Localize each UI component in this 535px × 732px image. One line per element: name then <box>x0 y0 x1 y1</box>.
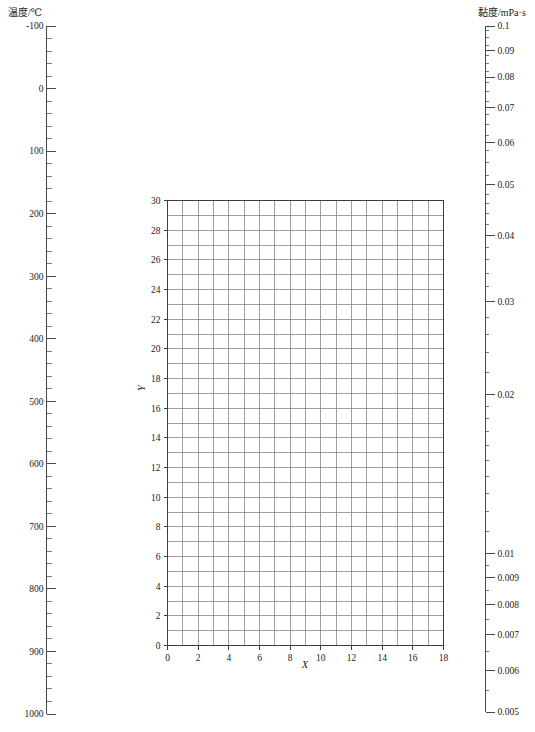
plot-y-tick-label: 8 <box>156 522 161 532</box>
right-axis-tick-label: 0.03 <box>498 297 515 307</box>
plot-y-tick-label: 28 <box>151 226 161 236</box>
left-axis-tick-label: -100 <box>26 21 44 31</box>
right-axis-tick-label: 0.009 <box>498 573 520 583</box>
right-viscosity-axis: 黏度/mPa·s 0.10.090.080.070.060.050.040.03… <box>478 6 526 717</box>
plot-y-tick-label: 0 <box>156 641 161 651</box>
plot-y-tick-label: 18 <box>151 374 161 384</box>
left-axis-title: 温度/℃ <box>8 6 42 18</box>
right-axis-tick-labels: 0.10.090.080.070.060.050.040.030.020.010… <box>498 21 520 717</box>
right-axis-tick-label: 0.08 <box>498 72 515 82</box>
left-axis-tick-label: 900 <box>29 647 44 657</box>
plot-y-tick-label: 26 <box>151 255 161 265</box>
right-axis-tick-label: 0.07 <box>498 103 515 113</box>
left-axis-tick-label: 400 <box>29 334 44 344</box>
plot-x-tick-label: 10 <box>316 653 326 663</box>
right-axis-tick-label: 0.06 <box>498 138 515 148</box>
right-axis-tick-label: 0.05 <box>498 180 515 190</box>
left-axis-tick-label: 600 <box>29 459 44 469</box>
left-axis-tick-label: 100 <box>29 146 44 156</box>
left-axis-tick-labels: -10001002003004005006007008009001000 <box>25 21 44 719</box>
plot-x-tick-label: 4 <box>226 653 231 663</box>
right-axis-tick-label: 0.02 <box>498 390 515 400</box>
left-axis-tick-label: 700 <box>29 522 44 532</box>
plot-x-tick-label: 8 <box>288 653 293 663</box>
right-axis-tick-label: 0.01 <box>498 549 515 559</box>
plot-y-axis-label: Y <box>136 384 147 391</box>
right-axis-tick-label: 0.1 <box>498 21 510 31</box>
plot-y-tick-label: 14 <box>151 433 161 443</box>
plot-y-tick-label: 6 <box>156 552 161 562</box>
plot-x-tick-label: 2 <box>196 653 201 663</box>
plot-x-tick-label: 18 <box>439 653 449 663</box>
plot-y-tick-labels: 024681012141618202224262830 <box>151 196 161 651</box>
plot-x-axis-label: X <box>301 659 309 670</box>
left-axis-tick-label: 200 <box>29 209 44 219</box>
left-axis-tick-label: 300 <box>29 272 44 282</box>
plot-x-tick-label: 16 <box>408 653 418 663</box>
right-axis-tick-label: 0.04 <box>498 231 515 241</box>
plot-y-tick-label: 12 <box>151 463 161 473</box>
plot-y-tick-label: 30 <box>151 196 161 206</box>
right-axis-tick-label: 0.09 <box>498 46 515 56</box>
right-axis-title: 黏度/mPa·s <box>478 6 526 18</box>
right-axis-tick-label: 0.006 <box>498 666 520 676</box>
left-axis-tick-label: 500 <box>29 397 44 407</box>
plot-y-ticks <box>164 201 168 646</box>
plot-y-tick-label: 24 <box>151 285 161 295</box>
right-axis-tick-label: 0.005 <box>498 707 520 717</box>
left-axis-ticks <box>47 26 56 714</box>
left-axis-tick-label: 0 <box>39 84 44 94</box>
left-axis-tick-label: 800 <box>29 584 44 594</box>
plot-x-tick-label: 14 <box>377 653 387 663</box>
nomogram-canvas: 温度/℃ -1000100200300400500600700800900100… <box>0 0 535 732</box>
right-axis-ticks <box>486 26 495 712</box>
plot-y-tick-label: 20 <box>151 344 161 354</box>
plot-y-tick-label: 22 <box>151 315 161 325</box>
right-axis-tick-label: 0.007 <box>498 630 520 640</box>
plot-x-tick-label: 12 <box>347 653 357 663</box>
plot-y-tick-label: 16 <box>151 404 161 414</box>
left-temperature-axis: 温度/℃ -1000100200300400500600700800900100… <box>8 6 56 719</box>
plot-y-tick-label: 4 <box>156 582 161 592</box>
plot-y-tick-label: 10 <box>151 493 161 503</box>
plot-x-tick-label: 6 <box>257 653 262 663</box>
plot-x-ticks <box>168 646 444 650</box>
plot-grid-area: 024681012141618 024681012141618202224262… <box>136 196 449 670</box>
plot-x-tick-label: 0 <box>165 653 170 663</box>
nomogram-figure: 温度/℃ -1000100200300400500600700800900100… <box>0 0 535 732</box>
right-axis-tick-label: 0.008 <box>498 600 520 610</box>
left-axis-tick-label: 1000 <box>25 709 44 719</box>
plot-y-tick-label: 2 <box>156 611 161 621</box>
